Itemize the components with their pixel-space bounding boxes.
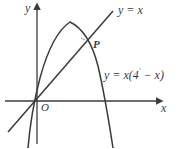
tick-artifact-near-p bbox=[81, 38, 85, 40]
parabola-equation-prefix: y = x(4 bbox=[104, 68, 139, 82]
curve-line-y-equals-x bbox=[8, 11, 113, 132]
point-p-label: P bbox=[93, 39, 100, 50]
origin-label: O bbox=[41, 102, 49, 113]
parabola-equation-suffix: − x) bbox=[140, 68, 163, 82]
geometry-figure: y x O P y = x y = x(4' − x) bbox=[0, 0, 184, 149]
parabola-equation-label: y = x(4' − x) bbox=[104, 68, 164, 81]
y-axis-label: y bbox=[25, 2, 30, 14]
line-equation-label: y = x bbox=[118, 4, 143, 16]
curve-parabola bbox=[28, 22, 113, 148]
x-axis-label: x bbox=[161, 102, 166, 114]
